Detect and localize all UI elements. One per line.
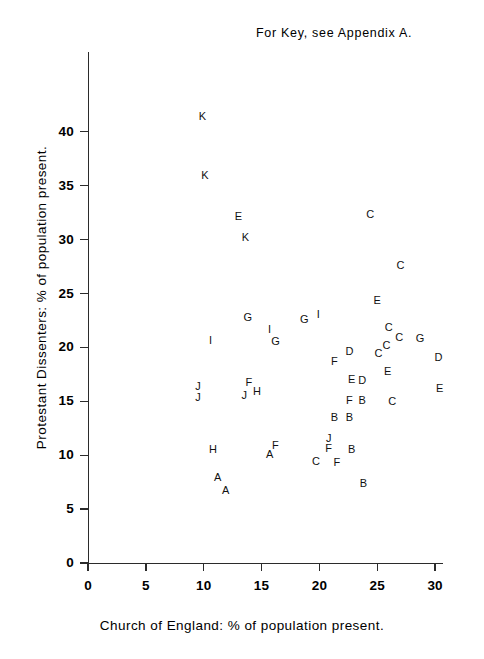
- data-point-g: G: [271, 335, 280, 346]
- data-point-e: E: [235, 210, 242, 221]
- data-point-f: F: [245, 376, 252, 387]
- data-point-a: A: [214, 471, 221, 482]
- data-point-h: H: [253, 385, 261, 396]
- data-point-a: A: [222, 484, 229, 495]
- data-point-c: C: [388, 396, 396, 407]
- data-point-i: I: [317, 308, 320, 319]
- data-point-i: I: [209, 334, 212, 345]
- data-point-b: B: [360, 478, 367, 489]
- data-point-f: F: [325, 442, 332, 453]
- data-point-c: C: [312, 455, 320, 466]
- data-point-d: D: [435, 352, 443, 363]
- data-point-e: E: [384, 366, 391, 377]
- data-point-c: C: [385, 321, 393, 332]
- data-point-g: G: [300, 314, 309, 325]
- data-point-d: D: [358, 374, 366, 385]
- data-point-e: E: [374, 294, 381, 305]
- data-point-c: C: [366, 208, 374, 219]
- data-point-j: J: [195, 391, 201, 402]
- data-point-k: K: [242, 232, 249, 243]
- data-point-b: B: [359, 395, 366, 406]
- data-point-g: G: [416, 332, 425, 343]
- data-point-c: C: [396, 260, 404, 271]
- data-point-e: E: [436, 383, 443, 394]
- data-point-f: F: [331, 356, 338, 367]
- data-point-d: D: [345, 345, 353, 356]
- data-point-a: A: [266, 449, 273, 460]
- data-point-k: K: [199, 110, 206, 121]
- data-point-b: B: [346, 412, 353, 423]
- data-point-layer: KKECKCEIGGIGCCGCIDCDFEEDFJHJJEFBCBBJFHBF…: [0, 0, 484, 659]
- scatter-chart-figure: 0510152025303540 051015202530 Protestant…: [0, 0, 484, 659]
- data-point-f: F: [346, 395, 353, 406]
- data-point-b: B: [331, 412, 338, 423]
- data-point-c: C: [383, 340, 391, 351]
- data-point-i: I: [268, 324, 271, 335]
- data-point-e: E: [348, 373, 355, 384]
- data-point-h: H: [209, 443, 217, 454]
- data-point-k: K: [201, 169, 208, 180]
- data-point-c: C: [374, 347, 382, 358]
- data-point-g: G: [243, 312, 252, 323]
- data-point-j: J: [241, 389, 247, 400]
- data-point-f: F: [333, 456, 340, 467]
- data-point-b: B: [348, 443, 355, 454]
- data-point-c: C: [395, 331, 403, 342]
